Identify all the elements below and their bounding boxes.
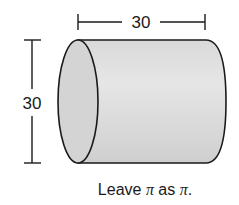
caption-suffix: .: [188, 181, 192, 198]
cylinder-end-face: [58, 40, 98, 163]
length-dimension: 30: [78, 13, 205, 32]
caption: Leave π as π.: [98, 181, 192, 198]
caption-middle: as: [154, 181, 180, 198]
length-label: 30: [132, 13, 151, 32]
diameter-label: 30: [23, 94, 42, 113]
diameter-dimension: 30: [23, 40, 42, 163]
cylinder-body: [78, 40, 226, 163]
cylinder-diagram: 30 30 Leave π as π.: [0, 0, 239, 205]
caption-prefix: Leave: [98, 181, 146, 198]
